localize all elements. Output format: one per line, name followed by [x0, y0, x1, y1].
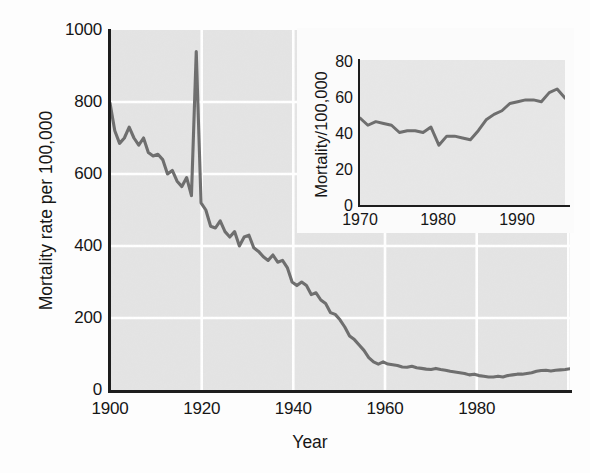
- main-ytick-1000: 1000: [36, 21, 102, 38]
- main-xtick-1940: 1940: [258, 400, 328, 417]
- main-chart-x-axis-label: Year: [250, 432, 370, 453]
- main-xtick-1900: 1900: [75, 400, 145, 417]
- main-chart-x-axis: [108, 390, 572, 393]
- inset-xtick-1980: 1980: [410, 212, 466, 228]
- main-xtick-1920: 1920: [167, 400, 237, 417]
- inset-xtick-1990: 1990: [489, 212, 545, 228]
- inset-chart-y-axis-label: Mortality/100,000: [312, 46, 331, 224]
- inset-xtick-1970: 1970: [332, 212, 388, 228]
- main-chart-y-axis-label: Mortality rate per 100,000: [36, 66, 57, 356]
- inset-chart-plot-area: [360, 60, 565, 205]
- inset-chart-x-axis: [358, 205, 570, 207]
- main-xtick-1980: 1980: [442, 400, 512, 417]
- inset-chart-line-series: [360, 89, 565, 145]
- inset-chart-y-axis: [358, 59, 360, 206]
- main-ytick-0: 0: [36, 381, 102, 398]
- figure-canvas: 0 200 400 600 800 1000 1900 1920 1940 19…: [0, 0, 590, 473]
- main-xtick-1960: 1960: [350, 400, 420, 417]
- inset-chart-svg: [360, 60, 565, 205]
- inset-chart: 0 20 40 60 80 1970 1980 1990 Mortality/1…: [297, 28, 574, 233]
- main-chart-y-axis: [108, 29, 111, 391]
